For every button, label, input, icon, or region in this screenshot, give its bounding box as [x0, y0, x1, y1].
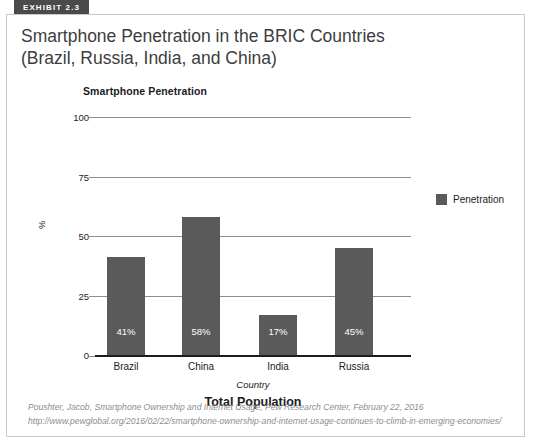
legend-swatch-penetration [436, 194, 447, 205]
tick-mark-75 [89, 177, 95, 178]
plot-area: 41% 58% 17% 45% Brazil China India Russi… [95, 117, 411, 355]
source-url[interactable]: http://www.pewglobal.org/2016/02/22/smar… [28, 414, 518, 428]
bar-value-india: 17% [259, 326, 297, 337]
source-citation: Poushter, Jacob, Smartphone Ownership an… [28, 402, 424, 412]
tick-mark-25 [89, 296, 95, 297]
x-tick-label-russia: Russia [317, 361, 391, 372]
tick-mark-0 [89, 356, 95, 357]
x-tick-label-china: China [164, 361, 238, 372]
chart-title: Smartphone Penetration [83, 85, 207, 97]
gridline-75 [95, 177, 411, 178]
bar-chart: Smartphone Penetration % 100 75 50 25 0 … [7, 77, 526, 377]
gridline-100 [95, 117, 411, 118]
x-axis-line [95, 355, 411, 357]
x-axis-title: Country [95, 379, 411, 390]
exhibit-card: Smartphone Penetration in the BRIC Count… [6, 14, 525, 437]
chart-legend: Penetration [436, 194, 504, 205]
tick-mark-50 [89, 236, 95, 237]
exhibit-title-line-2: (Brazil, Russia, India, and China) [21, 47, 491, 69]
legend-label-penetration: Penetration [453, 194, 504, 205]
y-tick-label-25: 25 [55, 290, 89, 301]
bar-value-russia: 45% [335, 326, 373, 337]
y-axis-tick-labels: 100 75 50 25 0 [47, 117, 89, 355]
bar-value-china: 58% [182, 326, 220, 337]
gridline-50 [95, 236, 411, 237]
exhibit-title-line-1: Smartphone Penetration in the BRIC Count… [21, 26, 385, 46]
y-tick-label-0: 0 [55, 350, 89, 361]
y-tick-label-100: 100 [55, 112, 89, 123]
y-tick-label-75: 75 [55, 171, 89, 182]
tick-mark-100 [89, 117, 95, 118]
bar-brazil[interactable]: 41% [107, 257, 145, 355]
x-tick-label-india: India [241, 361, 315, 372]
x-tick-label-brazil: Brazil [89, 361, 163, 372]
bar-value-brazil: 41% [107, 326, 145, 337]
bar-russia[interactable]: 45% [335, 248, 373, 355]
bar-china[interactable]: 58% [182, 217, 220, 355]
page-title: Smartphone Penetration in the BRIC Count… [21, 25, 491, 69]
y-tick-label-50: 50 [55, 231, 89, 242]
source-note: Poushter, Jacob, Smartphone Ownership an… [28, 400, 518, 428]
bar-india[interactable]: 17% [259, 315, 297, 356]
y-axis-title: % [36, 221, 47, 229]
